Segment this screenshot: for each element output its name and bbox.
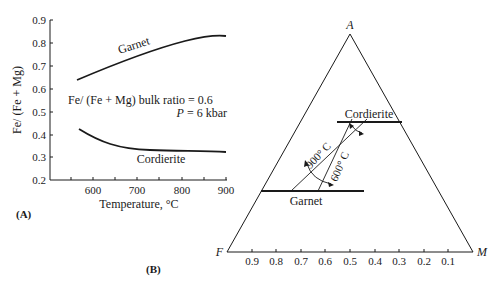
garnet-curve [77,36,226,80]
figure-svg: 0.9 0.8 0.7 0.6 0.5 0.4 0.3 0.2 600 700 … [0,0,503,287]
figure: 0.9 0.8 0.7 0.6 0.5 0.4 0.3 0.2 600 700 … [0,0,503,287]
y-tick-label: 0.4 [32,129,46,141]
y-axis-label: Fe/ (Fe + Mg) [10,66,24,134]
base-tick-label: 0.2 [417,255,431,267]
vertex-f-label: F [215,245,224,259]
base-tick-label: 0.8 [269,255,283,267]
x-tick-label: 800 [174,184,191,196]
base-tick-label: 0.5 [343,255,357,267]
y-tick-label: 0.2 [32,174,46,186]
base-tick-label: 0.4 [368,255,382,267]
pressure-annotation: P = 6 kbar [176,106,227,120]
cordierite-curve [79,129,226,152]
pressure-value: = 6 kbar [184,106,227,120]
y-tick-label: 0.3 [32,151,46,163]
y-tick-label: 0.5 [32,106,46,118]
y-tick-label: 0.6 [32,83,46,95]
bulk-ratio-annotation: Fe/ (Fe + Mg) bulk ratio = 0.6 [68,93,213,107]
x-tick-label: 600 [85,184,102,196]
panel-a: 0.9 0.8 0.7 0.6 0.5 0.4 0.3 0.2 600 700 … [10,14,235,221]
base-tick-label: 0.7 [294,255,308,267]
base-tick-label: 0.9 [245,255,259,267]
y-tick-label: 0.9 [32,14,46,26]
x-axis-label: Temperature, °C [99,197,178,211]
tie-label-600c: 600° C [328,150,352,183]
x-tick-label: 900 [218,184,235,196]
vertex-m-label: M [476,245,488,259]
vertex-a-label: A [345,18,354,32]
y-tick-label: 0.8 [32,37,46,49]
x-tick-label: 700 [129,184,146,196]
base-tick-label: 0.3 [392,255,406,267]
cordierite-phase-label: Cordierite [345,107,394,121]
base-tick-label: 0.6 [318,255,332,267]
ternary-triangle [227,34,473,252]
y-tick-label: 0.7 [32,60,46,72]
panel-b: A F M 0.9 0.8 0.7 0.6 0.5 0.4 0.3 0.2 0.… [146,18,488,276]
panel-b-label: (B) [146,263,161,276]
cordierite-curve-label: Cordierite [137,152,186,166]
garnet-phase-label: Garnet [290,194,323,208]
base-tick-label: 0.1 [441,255,455,267]
panel-a-label: (A) [16,208,32,221]
